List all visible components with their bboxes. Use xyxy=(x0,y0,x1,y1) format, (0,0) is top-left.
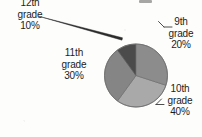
slice-label-11th-grade: 11th grade 30% xyxy=(46,47,102,82)
slice-label-11th-grade-line2: grade xyxy=(46,59,102,71)
slice-label-10th-grade-line2: grade xyxy=(158,95,202,107)
slice-label-9th-grade-percent: 20% xyxy=(160,39,202,51)
slice-label-9th-grade-line2: grade xyxy=(160,28,202,40)
slice-label-12th-grade-line1: 12th xyxy=(2,0,58,9)
slice-label-12th-grade: 12th grade 10% xyxy=(2,0,58,32)
slice-label-10th-grade-percent: 40% xyxy=(158,106,202,118)
slice-label-12th-grade-percent: 10% xyxy=(2,20,58,32)
slice-label-9th-grade: 9th grade 20% xyxy=(160,16,202,51)
slice-label-10th-grade: 10th grade 40% xyxy=(158,83,202,118)
slice-label-9th-grade-line1: 9th xyxy=(160,16,202,28)
slice-label-11th-grade-percent: 30% xyxy=(46,70,102,82)
slice-label-10th-grade-line1: 10th xyxy=(158,83,202,95)
pie-chart-figure: 12th grade 10% 9th grade 20% 10th grade … xyxy=(0,0,202,137)
slice-label-12th-grade-line2: grade xyxy=(2,9,58,21)
slice-label-11th-grade-line1: 11th xyxy=(46,47,102,59)
